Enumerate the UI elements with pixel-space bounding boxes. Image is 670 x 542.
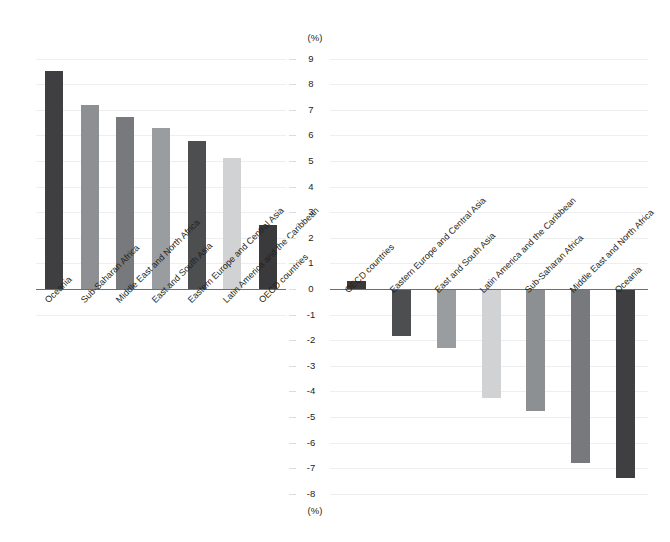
y-tick-dash: [289, 110, 296, 111]
y-tick-3: 3: [298, 206, 324, 217]
y-tick-dash: [289, 289, 296, 290]
y-tick-neg5: -5: [298, 411, 324, 422]
y-tick-0: 0: [298, 283, 324, 294]
y-tick-2: 2: [298, 232, 324, 243]
y-tick-neg1: -1: [298, 309, 324, 320]
y-tick-dash: [289, 315, 296, 316]
y-tick-dash: [289, 263, 296, 264]
category-label: Latin America and the Caribbean: [478, 195, 578, 295]
bar: [392, 289, 411, 336]
y-tick-dash: [289, 84, 296, 85]
y-tick-6: 6: [298, 129, 324, 140]
category-label: Middle East and North Africa: [568, 207, 656, 295]
gridline-5: [330, 161, 648, 162]
y-tick-dash: [289, 59, 296, 60]
y-tick-5: 5: [298, 155, 324, 166]
gridline-neg6: [330, 443, 648, 444]
gridline-3: [330, 212, 648, 213]
gridline-neg1: [36, 315, 286, 316]
bar: [81, 105, 99, 289]
bar: [571, 289, 590, 463]
left-bar-chart-panel: OceaniaSub-Saharan AfricaMiddle East and…: [0, 0, 300, 542]
bar: [437, 289, 456, 348]
category-label: Eastern Europe and Central Asia: [388, 195, 488, 295]
gridline-8: [36, 84, 286, 85]
axis-unit-bottom: (%): [300, 505, 330, 516]
y-tick-neg6: -6: [298, 437, 324, 448]
y-tick-dash: [289, 187, 296, 188]
y-tick-dash: [289, 340, 296, 341]
gridline-7: [36, 110, 286, 111]
y-tick-dash: [289, 443, 296, 444]
gridline-9: [36, 59, 286, 60]
y-tick-8: 8: [298, 78, 324, 89]
y-tick-9: 9: [298, 53, 324, 64]
gridline-9: [330, 59, 648, 60]
y-tick-neg4: -4: [298, 385, 324, 396]
bar: [526, 289, 545, 411]
y-tick-dash: [289, 238, 296, 239]
gridline-4: [330, 187, 648, 188]
y-tick-dash: [289, 417, 296, 418]
y-tick-dash: [289, 366, 296, 367]
y-tick-neg8: -8: [298, 488, 324, 499]
y-tick-dash: [289, 135, 296, 136]
y-tick-4: 4: [298, 181, 324, 192]
figure-two-panel-bar-chart: OceaniaSub-Saharan AfricaMiddle East and…: [0, 0, 670, 542]
gridline-6: [330, 135, 648, 136]
axis-unit-top: (%): [300, 32, 330, 43]
y-tick-neg2: -2: [298, 334, 324, 345]
gridline-7: [330, 110, 648, 111]
gridline-neg5: [330, 417, 648, 418]
y-tick-dash: [289, 494, 296, 495]
bar: [616, 289, 635, 478]
gridline-8: [330, 84, 648, 85]
y-tick-dash: [289, 212, 296, 213]
y-tick-neg7: -7: [298, 462, 324, 473]
y-tick-neg3: -3: [298, 360, 324, 371]
bar: [45, 71, 63, 289]
y-tick-dash: [289, 161, 296, 162]
y-tick-dash: [289, 391, 296, 392]
gridline-neg8: [330, 494, 648, 495]
gridline-neg7: [330, 468, 648, 469]
y-tick-7: 7: [298, 104, 324, 115]
y-tick-dash: [289, 468, 296, 469]
bar: [482, 289, 501, 398]
right-bar-chart-panel: OECD countriesEastern Europe and Central…: [330, 0, 670, 542]
y-tick-1: 1: [298, 257, 324, 268]
